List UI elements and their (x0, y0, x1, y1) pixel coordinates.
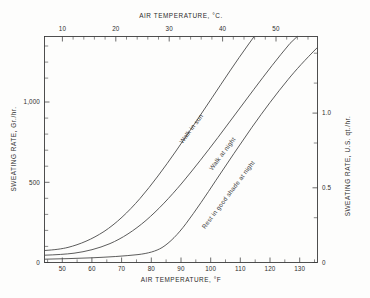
left-tick-label-0: 0 (36, 259, 40, 266)
top-tick-label-40: 40 (219, 25, 227, 32)
plot-frame (45, 37, 318, 263)
right-tick-label-0: 0 (322, 259, 326, 266)
sweating-rate-chart: 10 20 30 40 50 AIR TEMPERATURE, °C. (0, 0, 370, 298)
top-axis-ticks (62, 37, 308, 42)
bottom-tick-label-60: 60 (88, 265, 96, 272)
bottom-tick-label-80: 80 (148, 265, 156, 272)
bottom-tick-label-130: 130 (294, 265, 305, 272)
curve-label-rest-in-good-shade-at-night: Rest in good shade at night (200, 159, 257, 230)
bottom-tick-label-50: 50 (59, 265, 67, 272)
top-tick-label-10: 10 (59, 25, 67, 32)
right-axis-title: SWEATING RATE, U.S. qt./hr. (344, 116, 352, 217)
bottom-tick-label-110: 110 (235, 265, 246, 272)
curve-walk-in-sun (45, 37, 254, 251)
bottom-tick-label-90: 90 (177, 265, 185, 272)
top-tick-label-50: 50 (272, 25, 280, 32)
curve-rest-in-good-shade-at-night (45, 48, 318, 260)
right-tick-label-0point5: 0.5 (322, 184, 332, 191)
bottom-axis-title: AIR TEMPERATURE, °F (141, 276, 222, 283)
left-axis-ticks (45, 46, 50, 263)
top-tick-label-30: 30 (166, 25, 174, 32)
left-tick-label-500: 500 (29, 179, 40, 186)
bottom-tick-label-100: 100 (205, 265, 216, 272)
chart-figure: 10 20 30 40 50 AIR TEMPERATURE, °C. (0, 0, 370, 298)
right-tick-label-1: 1.0 (322, 109, 332, 116)
top-tick-label-20: 20 (112, 25, 120, 32)
curve-label-walk-at-night: Walk at night (207, 136, 237, 172)
top-axis-title: AIR TEMPERATURE, °C. (139, 12, 223, 19)
curve-label-walk-in-sun: Walk in sun (178, 112, 205, 144)
left-axis-title: SWEATING RATE, Gr./hr. (10, 106, 17, 191)
bottom-tick-label-120: 120 (265, 265, 276, 272)
bottom-tick-label-70: 70 (118, 265, 126, 272)
right-axis-ticks (313, 53, 318, 262)
left-tick-label-1000: 1,000 (23, 98, 40, 105)
curve-walk-at-night (45, 37, 297, 256)
